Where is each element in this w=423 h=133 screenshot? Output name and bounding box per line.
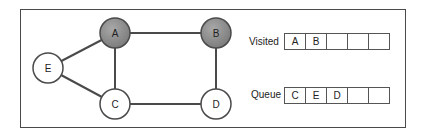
- visited-array: AB: [284, 33, 390, 50]
- graph-edges: [48, 33, 216, 104]
- node-A: A: [100, 18, 130, 48]
- visited-cell: [326, 33, 348, 50]
- node-C: C: [100, 89, 130, 119]
- visited-cell: A: [284, 33, 306, 50]
- graph: ABECD: [0, 0, 423, 133]
- visited-label: Visited: [249, 36, 279, 47]
- svg-text:E: E: [45, 63, 52, 74]
- visited-cell: [368, 33, 390, 50]
- queue-label: Queue: [251, 89, 281, 100]
- node-E: E: [33, 53, 63, 83]
- svg-text:C: C: [111, 99, 118, 110]
- queue-cell: D: [326, 87, 348, 104]
- visited-cell: [347, 33, 369, 50]
- queue-cell: [368, 87, 390, 104]
- node-D: D: [201, 89, 231, 119]
- svg-text:D: D: [212, 99, 219, 110]
- queue-cell: C: [284, 87, 306, 104]
- visited-cell: B: [305, 33, 327, 50]
- queue-array: CED: [284, 87, 390, 104]
- svg-text:B: B: [213, 28, 220, 39]
- node-B: B: [201, 18, 231, 48]
- svg-text:A: A: [112, 28, 119, 39]
- queue-cell: E: [305, 87, 327, 104]
- queue-cell: [347, 87, 369, 104]
